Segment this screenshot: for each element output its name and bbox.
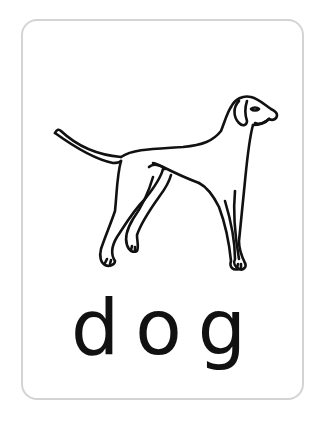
- dog-icon: [53, 91, 293, 291]
- flashcard-word: dog: [23, 278, 302, 378]
- flashcard: dog: [21, 19, 304, 400]
- dog-illustration: [53, 91, 293, 291]
